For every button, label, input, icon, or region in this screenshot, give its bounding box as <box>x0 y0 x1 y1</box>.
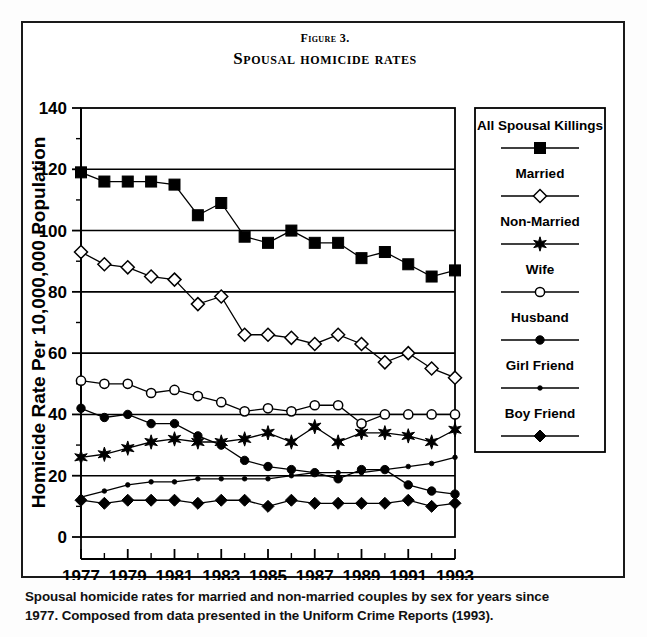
series-all-spousal-killings <box>76 167 461 282</box>
data-point-open-circle-marker <box>100 379 109 388</box>
x-tick-label: 1985 <box>249 567 287 580</box>
data-point-filled-diamond-marker <box>122 494 134 506</box>
legend-border <box>475 108 605 452</box>
data-point-filled-circle-marker <box>240 456 248 464</box>
figure-caption: Spousal homicide rates for married and n… <box>25 587 625 625</box>
data-point-filled-square-marker <box>216 197 227 208</box>
series-non-married <box>75 419 461 464</box>
series-line <box>81 172 455 276</box>
caption-line-1: Spousal homicide rates for married and n… <box>25 587 625 606</box>
data-point-small-dot-marker <box>312 470 317 475</box>
data-point-filled-square-marker <box>286 225 297 236</box>
data-point-filled-circle-marker <box>170 419 178 427</box>
y-tick-label: 60 <box>48 344 67 363</box>
data-point-small-dot-marker <box>453 455 458 460</box>
data-point-filled-square-marker <box>426 271 437 282</box>
data-point-filled-square-marker <box>379 247 390 258</box>
small-dot-marker <box>538 386 543 391</box>
data-point-open-circle-marker <box>123 379 132 388</box>
data-point-open-diamond-marker <box>332 328 345 341</box>
data-point-open-diamond-marker <box>355 337 368 350</box>
data-point-open-circle-marker <box>427 410 436 419</box>
data-point-small-dot-marker <box>196 476 201 481</box>
data-point-filled-diamond-marker <box>192 497 204 509</box>
data-point-filled-star-marker <box>332 435 344 449</box>
data-point-open-circle-marker <box>170 385 179 394</box>
data-point-open-circle-marker <box>287 407 296 416</box>
data-point-filled-star-marker <box>309 419 321 433</box>
data-point-open-circle-marker <box>357 419 366 428</box>
y-tick-label: 40 <box>48 405 67 424</box>
data-point-open-diamond-marker <box>378 356 391 369</box>
data-point-filled-diamond-marker <box>215 494 227 506</box>
data-point-small-dot-marker <box>149 480 154 485</box>
data-point-filled-diamond-marker <box>332 497 344 509</box>
data-point-filled-square-marker <box>356 253 367 264</box>
data-point-open-circle-marker <box>147 388 156 397</box>
data-point-filled-circle-marker <box>334 475 342 483</box>
data-point-small-dot-marker <box>289 473 294 478</box>
y-axis-title: Homicide Rate Per 10,000,000 Population <box>28 137 49 509</box>
data-point-open-circle-marker <box>240 407 249 416</box>
data-point-small-dot-marker <box>125 483 130 488</box>
data-point-filled-star-marker <box>425 435 437 449</box>
legend-label: Non-Married <box>500 214 580 229</box>
x-tick-label: 1989 <box>343 567 381 580</box>
data-point-filled-circle-marker <box>264 462 272 470</box>
data-point-open-circle-marker <box>193 391 202 400</box>
data-point-filled-diamond-marker <box>449 497 461 509</box>
x-tick-label: 1987 <box>296 567 334 580</box>
data-point-filled-star-marker <box>285 435 297 449</box>
y-tick-label: 0 <box>58 528 67 547</box>
data-point-open-circle-marker <box>310 401 319 410</box>
data-point-filled-diamond-marker <box>169 494 181 506</box>
plot-border <box>81 108 455 537</box>
data-point-filled-square-marker <box>169 179 180 190</box>
data-point-filled-star-marker <box>262 426 274 440</box>
data-point-filled-diamond-marker <box>239 494 251 506</box>
data-point-filled-square-marker <box>192 210 203 221</box>
data-point-small-dot-marker <box>242 476 247 481</box>
data-point-small-dot-marker <box>406 464 411 469</box>
data-point-filled-square-marker <box>76 167 87 178</box>
data-point-open-circle-marker <box>334 401 343 410</box>
legend-label: Boy Friend <box>505 406 576 421</box>
series-wife <box>76 376 459 428</box>
x-tick-label: 1981 <box>156 567 194 580</box>
y-tick-label: 80 <box>48 283 67 302</box>
x-tick-label: 1983 <box>202 567 240 580</box>
data-point-filled-diamond-marker <box>356 497 368 509</box>
data-point-open-diamond-marker <box>402 347 415 360</box>
y-axis-title-group: Homicide Rate Per 10,000,000 Population <box>28 137 49 509</box>
data-point-open-circle-marker <box>76 376 85 385</box>
series-boy-friend <box>75 494 461 512</box>
plot-wrapper: Homicide Rate Per 10,000,000 Population … <box>23 23 627 580</box>
data-point-small-dot-marker <box>266 476 271 481</box>
legend-label: All Spousal Killings <box>477 118 603 133</box>
y-tick-label: 120 <box>39 160 67 179</box>
legend-label: Married <box>516 166 565 181</box>
data-point-filled-circle-marker <box>100 413 108 421</box>
y-tick-label: 20 <box>48 467 67 486</box>
data-point-filled-diamond-marker <box>98 497 110 509</box>
x-axis-tick-labels: 197719791981198319851987198919911993 <box>62 567 474 580</box>
data-point-open-diamond-marker <box>145 270 158 283</box>
data-point-open-circle-marker <box>217 398 226 407</box>
data-point-filled-diamond-marker <box>309 497 321 509</box>
data-point-filled-square-marker <box>146 176 157 187</box>
data-point-filled-circle-marker <box>427 487 435 495</box>
y-tick-label: 100 <box>39 222 67 241</box>
data-point-filled-circle-marker <box>77 404 85 412</box>
spousal-homicide-line-chart: Homicide Rate Per 10,000,000 Population … <box>23 23 627 580</box>
data-point-small-dot-marker <box>219 476 224 481</box>
y-tick-label: 140 <box>39 99 67 118</box>
data-point-filled-square-marker <box>450 265 461 276</box>
data-point-filled-circle-marker <box>147 419 155 427</box>
caption-line-2: 1977. Composed from data presented in th… <box>25 606 625 625</box>
filled-circle-marker <box>536 336 544 344</box>
data-point-open-diamond-marker <box>285 331 298 344</box>
data-point-open-diamond-marker <box>449 371 462 384</box>
data-point-open-diamond-marker <box>75 246 88 259</box>
data-point-open-diamond-marker <box>262 328 275 341</box>
data-point-filled-square-marker <box>333 237 344 248</box>
